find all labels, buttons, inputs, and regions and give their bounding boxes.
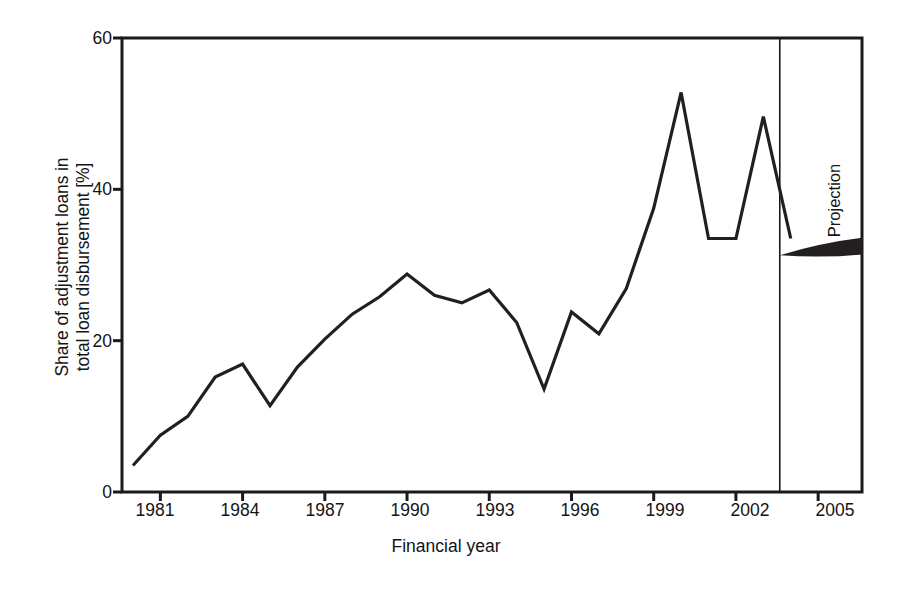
plot-area xyxy=(0,0,907,590)
projection-region xyxy=(780,38,862,492)
projection-band xyxy=(780,238,862,257)
chart-figure: Share of adjustment loans in total loan … xyxy=(0,0,907,590)
plot-frame xyxy=(122,38,862,492)
axis-frame xyxy=(122,38,862,492)
data-series-line xyxy=(133,92,791,465)
